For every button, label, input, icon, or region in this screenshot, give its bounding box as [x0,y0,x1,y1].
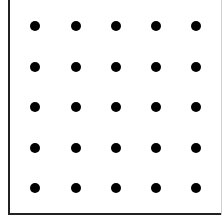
grid-dot [71,21,81,31]
grid-dot [71,143,81,153]
grid-dot [30,62,40,72]
grid-dot [30,21,40,31]
grid-dot [191,62,201,72]
grid-dot [111,143,121,153]
grid-dot [30,102,40,112]
dot-grid [0,0,224,219]
grid-dot [111,102,121,112]
grid-dot [111,21,121,31]
grid-dot [151,143,161,153]
grid-dot [151,102,161,112]
grid-dot [71,62,81,72]
grid-dot [191,102,201,112]
grid-dot [71,102,81,112]
grid-dot [151,62,161,72]
grid-dot [191,21,201,31]
grid-dot [191,183,201,193]
grid-dot [30,183,40,193]
grid-dot [191,143,201,153]
grid-dot [111,183,121,193]
grid-dot [151,21,161,31]
grid-dot [30,143,40,153]
grid-dot [71,183,81,193]
grid-dot [111,62,121,72]
grid-dot [151,183,161,193]
